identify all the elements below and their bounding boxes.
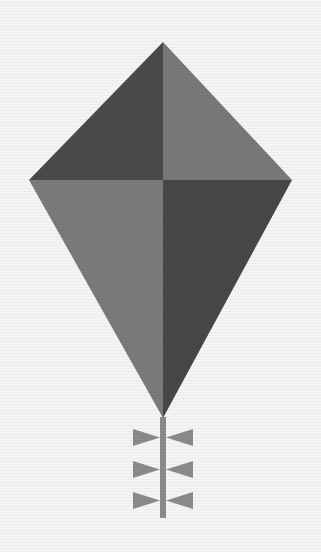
kite-tail [133,417,193,518]
kite-illustration-canvas [0,0,321,552]
tail-line [160,417,166,518]
kite-illustration-svg [0,0,321,552]
